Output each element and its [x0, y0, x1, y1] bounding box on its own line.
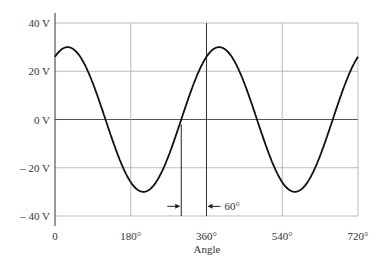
- grid: [55, 23, 358, 216]
- arrowhead-left-icon: [208, 204, 213, 209]
- y-tick-label: – 40 V: [19, 210, 50, 222]
- y-tick-label: – 20 V: [19, 162, 50, 174]
- x-tick-label: 180°: [120, 230, 141, 242]
- y-tick-label: 40 V: [29, 17, 51, 29]
- x-axis-tick-labels: 0180°360°540°720°: [52, 230, 368, 242]
- phase-shift-label: 60°: [225, 200, 240, 212]
- arrowhead-right-icon: [175, 204, 180, 209]
- y-tick-label: 0 V: [34, 114, 50, 126]
- x-tick-label: 360°: [196, 230, 217, 242]
- x-axis-label: Angle: [194, 243, 221, 255]
- x-tick-label: 540°: [272, 230, 293, 242]
- y-axis-tick-labels: 40 V20 V0 V– 20 V– 40 V: [19, 17, 50, 222]
- phase-annotation: 60°: [167, 124, 240, 216]
- phase-shift-chart: 40 V20 V0 V– 20 V– 40 V 0180°360°540°720…: [0, 0, 387, 266]
- x-tick-label: 720°: [348, 230, 369, 242]
- x-tick-label: 0: [52, 230, 58, 242]
- y-tick-label: 20 V: [29, 65, 51, 77]
